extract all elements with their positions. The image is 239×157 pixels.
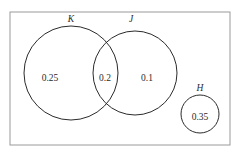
region-value-h-only: 0.35 — [192, 112, 209, 122]
region-value-k-only: 0.25 — [42, 73, 59, 83]
venn-diagram-figure: K J H 0.25 0.2 0.1 0.35 — [0, 0, 239, 157]
region-value-k-and-j: 0.2 — [99, 73, 111, 83]
set-label-h: H — [196, 83, 205, 93]
region-value-j-only: 0.1 — [141, 73, 153, 83]
venn-diagram-canvas: K J H 0.25 0.2 0.1 0.35 — [0, 0, 239, 157]
set-label-k: K — [67, 14, 75, 24]
